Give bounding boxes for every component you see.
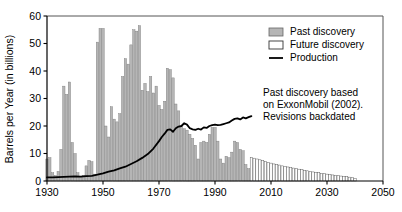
bar-past-discovery [107, 137, 109, 181]
bar-past-discovery [124, 59, 126, 181]
bar-future-discovery [331, 175, 333, 181]
bar-future-discovery [306, 171, 308, 181]
bar-past-discovery [68, 82, 70, 181]
bar-future-discovery [259, 160, 261, 181]
bar-past-discovery [169, 70, 171, 181]
bar-past-discovery [91, 162, 93, 181]
bar-future-discovery [261, 161, 263, 181]
legend-label-production: Production [290, 52, 338, 63]
bar-past-discovery [225, 156, 227, 181]
bar-past-discovery [222, 163, 224, 181]
annotation-line-1: Past discovery based [263, 87, 358, 98]
bar-past-discovery [247, 169, 249, 181]
x-tick-label: 2010 [259, 186, 283, 198]
bar-future-discovery [337, 176, 339, 182]
bar-past-discovery [85, 166, 87, 181]
bar-future-discovery [250, 158, 252, 181]
x-tick-label: 1930 [35, 186, 59, 198]
bar-past-discovery [152, 93, 154, 181]
bar-past-discovery [166, 68, 168, 181]
bar-future-discovery [312, 172, 314, 181]
bar-future-discovery [264, 161, 266, 181]
chart-annotation: Past discovery based on ExxonMobil (2002… [263, 87, 363, 122]
chart-canvas: 0102030405060 19301950197019902010203020… [0, 0, 402, 212]
bar-past-discovery [161, 110, 163, 182]
bar-past-discovery [147, 92, 149, 181]
bar-past-discovery [88, 160, 90, 181]
bar-future-discovery [343, 176, 345, 181]
bar-past-discovery [203, 141, 205, 181]
bar-past-discovery [102, 28, 104, 181]
bar-past-discovery [116, 122, 118, 181]
y-tick-label: 60 [29, 10, 41, 22]
bar-future-discovery [340, 176, 342, 181]
bar-future-discovery [273, 164, 275, 181]
bar-past-discovery [233, 141, 235, 181]
bar-past-discovery [65, 94, 67, 181]
bar-future-discovery [326, 174, 328, 181]
bar-past-discovery [113, 119, 115, 181]
bar-past-discovery [63, 86, 65, 181]
bar-past-discovery [163, 101, 165, 181]
bar-past-discovery [119, 114, 121, 181]
bar-past-discovery [219, 159, 221, 181]
figure-oil-discovery-production: 0102030405060 19301950197019902010203020… [0, 0, 402, 212]
bar-future-discovery [309, 171, 311, 181]
bar-past-discovery [99, 28, 101, 181]
bar-future-discovery [275, 165, 277, 182]
bar-past-discovery [130, 45, 132, 181]
bar-past-discovery [189, 134, 191, 181]
bar-future-discovery [270, 163, 272, 181]
bar-future-discovery [303, 170, 305, 181]
y-tick-label: 50 [29, 37, 41, 49]
bar-past-discovery [194, 145, 196, 181]
y-axis-ticks: 0102030405060 [29, 10, 47, 187]
bar-past-discovery [245, 165, 247, 182]
y-axis-title: Barrels per Year (in billions) [3, 35, 15, 163]
bar-past-discovery [54, 176, 56, 182]
bar-past-discovery [183, 129, 185, 181]
bar-past-discovery [197, 159, 199, 181]
bar-future-discovery [298, 169, 300, 181]
bar-past-discovery [236, 143, 238, 182]
bar-future-discovery [301, 170, 303, 181]
bar-past-discovery [242, 151, 244, 181]
annotation-line-3: Revisions backdated [263, 111, 355, 122]
x-tick-label: 2030 [315, 186, 339, 198]
bar-future-discovery [315, 172, 317, 181]
bar-past-discovery [96, 42, 98, 181]
bar-past-discovery [228, 158, 230, 181]
bar-past-discovery [135, 31, 137, 181]
bar-future-discovery [284, 166, 286, 181]
bar-future-discovery [292, 168, 294, 181]
bar-past-discovery [214, 127, 216, 181]
bar-future-discovery [289, 168, 291, 181]
x-tick-label: 1950 [91, 186, 115, 198]
bar-future-discovery [320, 173, 322, 181]
annotation-line-2: on ExxonMobil (2002). [263, 99, 363, 110]
bar-past-discovery [205, 143, 207, 182]
bar-past-discovery [186, 130, 188, 181]
y-tick-label: 10 [29, 147, 41, 159]
bar-past-discovery [149, 77, 151, 182]
y-tick-label: 30 [29, 92, 41, 104]
bar-past-discovery [180, 126, 182, 181]
bar-future-discovery [253, 158, 255, 181]
bar-past-discovery [141, 90, 143, 181]
bar-future-discovery [278, 165, 280, 181]
bar-future-discovery [287, 167, 289, 181]
bar-past-discovery [177, 111, 179, 181]
bar-past-discovery [231, 152, 233, 181]
y-tick-label: 40 [29, 65, 41, 77]
bar-past-discovery [121, 77, 123, 182]
bar-future-discovery [281, 166, 283, 181]
bar-future-discovery [334, 175, 336, 181]
legend-swatch-future-discovery [269, 41, 283, 49]
bar-past-discovery [200, 143, 202, 182]
bar-future-discovery [295, 169, 297, 181]
bar-past-discovery [211, 127, 213, 181]
bar-past-discovery [239, 149, 241, 181]
bar-past-discovery [57, 171, 59, 181]
x-tick-label: 1990 [203, 186, 227, 198]
bar-past-discovery [191, 138, 193, 181]
